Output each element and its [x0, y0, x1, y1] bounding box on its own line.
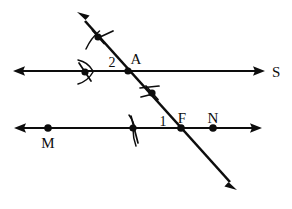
transversal-bottom-arrowhead [223, 177, 237, 190]
compass-dot-transversal-upper [94, 33, 101, 40]
line-s-group [13, 66, 265, 76]
transversal-top-arrowhead [77, 12, 91, 25]
label-point-m: M [41, 135, 54, 151]
label-angle-2: 2 [109, 55, 116, 70]
label-point-n: N [208, 110, 219, 126]
label-angle-1: 1 [160, 114, 167, 129]
point-m-dot [44, 124, 52, 132]
label-point-f: F [178, 110, 186, 126]
transversal-segment [85, 21, 230, 182]
geometry-figure: S A F N M 2 1 [0, 0, 292, 209]
compass-dot-line-mn [129, 124, 136, 131]
label-line-s: S [272, 64, 280, 80]
compass-mark-line-mn [129, 115, 138, 146]
compass-dot-line-s [81, 68, 88, 75]
compass-dot-transversal-lower [148, 89, 155, 96]
geometry-canvas: S A F N M 2 1 [0, 0, 292, 209]
compass-mark-transversal-lower [140, 86, 159, 100]
label-point-a: A [131, 51, 142, 67]
point-a-dot [124, 67, 131, 74]
